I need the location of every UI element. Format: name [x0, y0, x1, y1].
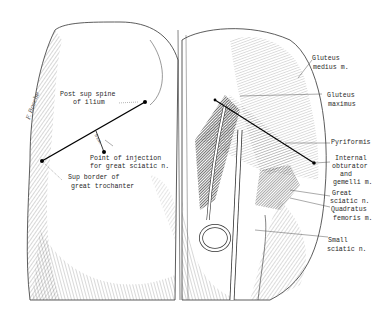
- illustration-drawing: [0, 0, 385, 326]
- label-internal-obturator-2: obturator: [332, 163, 368, 171]
- label-injection-point-2: for great sciatic n.: [90, 163, 169, 171]
- label-quadratus-femoris: Quadratus: [331, 206, 367, 214]
- label-great-trochanter-2: great trochanter: [71, 183, 134, 191]
- label-quadratus-femoris-2: femoris m.: [333, 215, 373, 223]
- label-small-sciatic: Small: [328, 237, 348, 245]
- label-gluteus-maximus: Gluteus: [327, 92, 355, 100]
- label-great-sciatic-2: sciatic n.: [330, 198, 370, 206]
- anatomical-illustration: F. Bosche Post sup spine of ilium Point …: [0, 0, 385, 326]
- label-internal-obturator: Internal: [335, 155, 367, 163]
- trochanter-point: [40, 159, 44, 163]
- label-internal-obturator-4: gemelli m.: [333, 179, 373, 187]
- label-small-sciatic-2: sciatic n.: [327, 246, 367, 254]
- right-panel-dissection: [178, 29, 330, 300]
- injection-point: [102, 150, 106, 154]
- label-gluteus-maximus-2: maximus: [328, 101, 356, 109]
- label-post-sup-spine: Post sup spine: [60, 91, 115, 99]
- label-post-sup-spine-2: of ilium: [73, 99, 105, 107]
- label-internal-obturator-3: and: [340, 171, 352, 179]
- label-gluteus-medius: Gluteus: [312, 55, 340, 63]
- label-injection-point: Point of injection: [90, 155, 161, 163]
- iliac-spine-point: [143, 100, 147, 104]
- label-great-trochanter: Sup border of: [68, 174, 119, 182]
- label-great-sciatic: Great: [332, 190, 352, 198]
- label-gluteus-medius-2: medius m.: [313, 64, 349, 72]
- label-pyriformis: Pyriformis: [331, 139, 371, 147]
